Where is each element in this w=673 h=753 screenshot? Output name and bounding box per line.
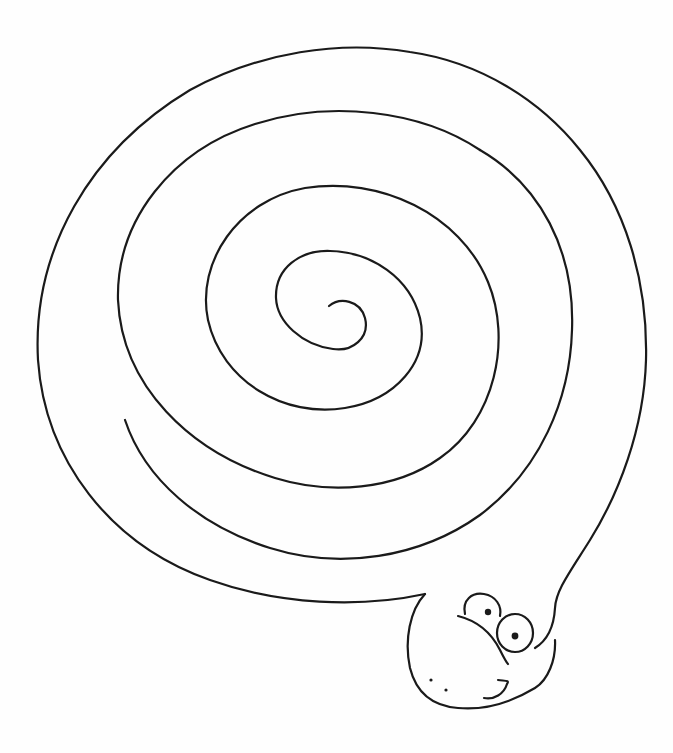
coloring-page: spiral coiled snake xyxy=(0,0,673,753)
nostrils xyxy=(429,678,447,691)
snake-illustration xyxy=(0,0,673,753)
head-outline xyxy=(408,594,555,708)
spiral-ring-divider xyxy=(125,150,572,559)
spiral-body-inner-line xyxy=(118,111,499,487)
eye-right xyxy=(497,614,533,652)
smile xyxy=(484,680,508,698)
eye-left xyxy=(464,594,500,616)
